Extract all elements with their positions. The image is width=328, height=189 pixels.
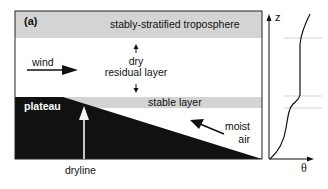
residual-up-arrow-icon bbox=[134, 44, 139, 53]
moist-air-label-air: air bbox=[210, 134, 250, 145]
dryline-label: dryline bbox=[65, 165, 96, 176]
residual-down-arrow-icon bbox=[134, 84, 139, 93]
theta-profile-panel bbox=[267, 14, 323, 162]
plateau-label: plateau bbox=[24, 101, 61, 112]
z-axis-label: z bbox=[275, 12, 281, 23]
panel-label: (a) bbox=[24, 16, 37, 27]
theta-axis-arrow-icon bbox=[307, 157, 314, 162]
troposphere-label: stably-stratified troposphere bbox=[110, 19, 240, 30]
residual-layer-label: residual layer bbox=[96, 67, 176, 78]
stable-layer-label: stable layer bbox=[148, 97, 202, 108]
theta-profile-curve bbox=[270, 14, 310, 159]
wind-label: wind bbox=[32, 57, 54, 68]
z-axis-arrow-icon bbox=[267, 14, 272, 21]
theta-axis-label: θ bbox=[301, 163, 307, 174]
moist-air-label-moist: moist bbox=[210, 121, 250, 132]
